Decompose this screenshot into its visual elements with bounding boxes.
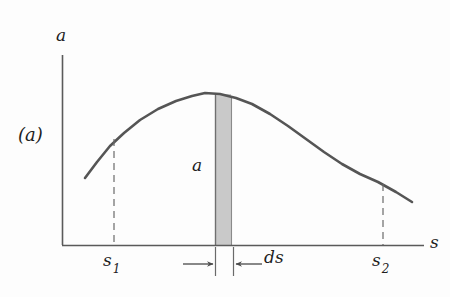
s1-subscript: 1 (113, 262, 121, 276)
s1-base: s (103, 250, 112, 270)
ds-width-label: ds (264, 249, 284, 266)
s2-subscript: 2 (382, 262, 390, 276)
s2-tick-label: s2 (372, 252, 388, 272)
y-axis-label: a (56, 27, 66, 44)
acceleration-curve (85, 93, 412, 202)
differential-strip (215, 94, 231, 245)
x-axis-label: s (430, 234, 439, 251)
s1-tick-label: s1 (103, 252, 119, 272)
strip-area-label: a (192, 157, 202, 174)
s2-base: s (372, 250, 381, 270)
figure-container: a s (a) a s1 s2 ds (0, 0, 450, 297)
panel-label: (a) (18, 126, 43, 144)
